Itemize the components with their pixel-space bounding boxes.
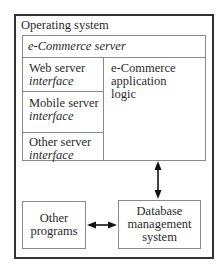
vertical-bidirectional-arrow-icon [155,161,162,199]
horizontal-bidirectional-arrow-icon [87,222,117,229]
connection-arrows [0,0,222,273]
